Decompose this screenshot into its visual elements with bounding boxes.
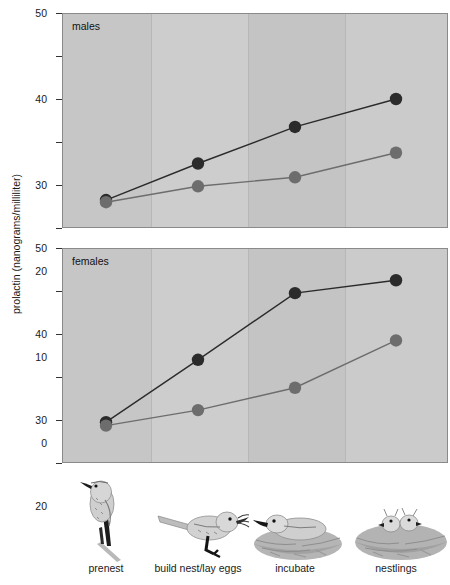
x-axis-label: build nest/lay eggs xyxy=(155,562,242,574)
prolactin-figure: prolactin (nanograms/milliliter) males 5… xyxy=(0,0,450,585)
data-point xyxy=(100,419,112,431)
panel-label-males: males xyxy=(72,20,100,32)
series-line-dark xyxy=(106,280,396,422)
series-line-dark xyxy=(106,99,396,200)
data-point xyxy=(390,147,402,159)
x-axis-labels: prenestbuild nest/lay eggsincubatenestli… xyxy=(62,562,450,582)
y-axis-title: prolactin (nanograms/milliliter) xyxy=(10,134,22,354)
y-tick-label: 20 xyxy=(35,500,47,512)
panel-males: males 50403020100 xyxy=(62,13,448,228)
data-point xyxy=(192,157,204,169)
y-tick-label: 20 xyxy=(35,265,47,277)
y-tick: 0 xyxy=(56,228,62,229)
x-axis-label: nestlings xyxy=(375,562,416,574)
panel-females: females 50403020100 xyxy=(62,248,448,463)
data-point xyxy=(192,354,204,366)
y-tick-label: 0 xyxy=(41,437,47,449)
data-point xyxy=(289,382,301,394)
y-tick-label: 50 xyxy=(35,242,47,254)
y-tick-label: 40 xyxy=(35,93,47,105)
data-point xyxy=(100,196,112,208)
x-axis-label: prenest xyxy=(88,562,123,574)
series-overlay-females xyxy=(62,248,448,463)
series-overlay-males xyxy=(62,13,448,228)
data-point xyxy=(289,121,301,133)
perched-bird-icon xyxy=(77,470,135,562)
data-point xyxy=(289,171,301,183)
illustration-row xyxy=(62,466,450,562)
y-tick-label: 50 xyxy=(35,7,47,19)
x-axis-label: incubate xyxy=(275,562,315,574)
data-point xyxy=(390,93,402,105)
data-point xyxy=(192,180,204,192)
series-line-light xyxy=(106,340,396,425)
y-tick-label: 10 xyxy=(35,351,47,363)
data-point xyxy=(390,274,402,286)
y-tick-label: 30 xyxy=(35,414,47,426)
series-line-light xyxy=(106,153,396,202)
bird-carrying-nest-material-icon xyxy=(154,490,250,562)
chicks-in-nest-icon xyxy=(351,496,450,562)
y-tick-label: 30 xyxy=(35,179,47,191)
data-point xyxy=(289,287,301,299)
data-point xyxy=(390,334,402,346)
y-tick-label: 40 xyxy=(35,328,47,340)
panel-label-females: females xyxy=(72,255,109,267)
bird-incubating-in-nest-icon xyxy=(250,496,346,562)
data-point xyxy=(192,404,204,416)
y-tick: 0 xyxy=(56,463,62,464)
